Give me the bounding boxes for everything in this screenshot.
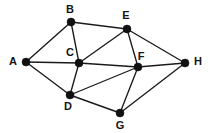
graph-diagram: ABCDEFGH <box>0 0 211 133</box>
graph-node-label-h: H <box>194 55 202 67</box>
graph-node-label-e: E <box>122 9 129 21</box>
node-layer <box>22 18 189 117</box>
graph-edge-a-c <box>26 62 79 63</box>
graph-node-h <box>181 59 189 67</box>
graph-edge-d-f <box>70 67 138 95</box>
graph-edge-f-h <box>138 63 185 67</box>
graph-edge-c-e <box>79 29 127 63</box>
graph-node-c <box>75 59 83 67</box>
graph-canvas: ABCDEFGH <box>0 0 211 133</box>
graph-node-g <box>116 109 124 117</box>
node-label-layer: ABCDEFGH <box>9 3 202 131</box>
graph-edge-b-e <box>71 22 127 29</box>
graph-edge-a-d <box>26 62 70 95</box>
graph-node-d <box>66 91 74 99</box>
graph-node-a <box>22 58 30 66</box>
graph-node-label-c: C <box>66 46 74 58</box>
graph-node-e <box>123 25 131 33</box>
graph-node-b <box>67 18 75 26</box>
graph-edge-c-d <box>70 63 79 95</box>
graph-node-label-g: G <box>116 119 125 131</box>
graph-node-label-d: D <box>64 100 72 112</box>
graph-node-label-a: A <box>9 55 17 67</box>
graph-edge-c-f <box>79 63 138 67</box>
graph-node-label-b: B <box>66 3 74 15</box>
graph-node-f <box>134 63 142 71</box>
edge-layer <box>26 22 185 113</box>
graph-edge-d-g <box>70 95 120 113</box>
graph-edge-a-b <box>26 22 71 62</box>
graph-node-label-f: F <box>138 50 145 62</box>
